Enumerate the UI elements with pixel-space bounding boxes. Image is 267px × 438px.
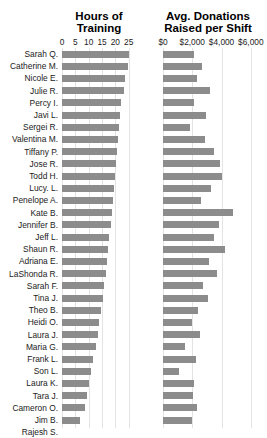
- category-label: Jose R.: [2, 158, 58, 170]
- bar: [62, 63, 128, 70]
- bar: [62, 87, 124, 94]
- bar: [62, 392, 87, 399]
- category-label: Shaun R.: [2, 243, 58, 255]
- bar: [62, 136, 118, 143]
- category-label: Lucy. L.: [2, 182, 58, 194]
- bar: [163, 246, 225, 253]
- category-label: Nicole E.: [2, 72, 58, 84]
- bar: [163, 209, 233, 216]
- bar: [62, 319, 99, 326]
- bar: [163, 136, 205, 143]
- category-label: Penelope A.: [2, 194, 58, 206]
- axis-tick-label: $2,000: [180, 37, 205, 48]
- bar: [62, 112, 120, 119]
- bar: [163, 124, 190, 131]
- category-label: Frank L.: [2, 353, 58, 365]
- bar: [62, 258, 107, 265]
- bar: [62, 51, 129, 58]
- bar: [163, 404, 197, 411]
- bar: [62, 343, 96, 350]
- bar: [163, 356, 196, 363]
- bar: [62, 185, 114, 192]
- category-label: Heidi O.: [2, 316, 58, 328]
- bar: [62, 282, 104, 289]
- bar: [62, 234, 109, 241]
- bar: [62, 295, 103, 302]
- donations-bar-panel: [163, 48, 264, 428]
- category-label: Percy I.: [2, 97, 58, 109]
- bar: [163, 258, 209, 265]
- category-label: Todd H.: [2, 170, 58, 182]
- category-label: Sergei R.: [2, 121, 58, 133]
- bar: [62, 197, 113, 204]
- bar: [163, 307, 198, 314]
- category-label: Jennifer B.: [2, 219, 58, 231]
- bar: [163, 234, 214, 241]
- category-label: Theo B.: [2, 304, 58, 316]
- gridline: [251, 48, 252, 428]
- category-label: Tara J.: [2, 390, 58, 402]
- bar: [163, 380, 194, 387]
- category-label: Jim B.: [2, 414, 58, 426]
- bar: [62, 307, 101, 314]
- category-label: Valentina M.: [2, 133, 58, 145]
- bar: [62, 356, 93, 363]
- axis-tick-label: $0: [158, 37, 167, 48]
- donations-panel-title: Avg. Donations Raised per Shift: [152, 10, 264, 35]
- bar: [163, 173, 222, 180]
- bar: [62, 75, 125, 82]
- category-label: Son L.: [2, 365, 58, 377]
- bar: [62, 221, 111, 228]
- category-label: Cameron O.: [2, 402, 58, 414]
- bar: [62, 124, 119, 131]
- category-label: Sarah Q.: [2, 48, 58, 60]
- bar: [163, 148, 214, 155]
- category-label: Adriana E.: [2, 255, 58, 267]
- bar: [163, 319, 192, 326]
- bar: [163, 75, 197, 82]
- category-label: Laura K.: [2, 377, 58, 389]
- bar: [163, 185, 211, 192]
- bar: [62, 270, 106, 277]
- category-label: Maria G.: [2, 341, 58, 353]
- category-label: Laura J.: [2, 329, 58, 341]
- gridline: [222, 48, 223, 428]
- bar: [163, 63, 202, 70]
- bar: [62, 173, 115, 180]
- category-label: Tina J.: [2, 292, 58, 304]
- bar: [163, 331, 200, 338]
- bar: [62, 368, 91, 375]
- category-label: Javi L.: [2, 109, 58, 121]
- category-label: LaShonda R.: [2, 268, 58, 280]
- bar: [163, 417, 192, 424]
- bar: [62, 404, 85, 411]
- bar: [163, 51, 194, 58]
- bar: [163, 270, 217, 277]
- bar: [163, 221, 219, 228]
- bar: [62, 380, 89, 387]
- bar: [62, 148, 117, 155]
- bar: [62, 331, 98, 338]
- category-label-column: Sarah Q.Catherine M.Nicole E.Julie R.Per…: [0, 48, 58, 428]
- donations-axis-ticks: $0$2,000$4,000$6,000: [0, 37, 267, 48]
- hours-panel-title: Hours of Training: [62, 10, 136, 35]
- category-label: Catherine M.: [2, 60, 58, 72]
- gridline: [129, 48, 130, 428]
- bar: [163, 160, 220, 167]
- bar: [163, 99, 194, 106]
- bar: [163, 282, 203, 289]
- bar: [163, 368, 179, 375]
- category-label: Rajesh S.: [2, 426, 58, 438]
- hours-bar-panel: [62, 48, 134, 428]
- bar: [163, 295, 208, 302]
- category-label: Sarah F.: [2, 280, 58, 292]
- bar: [163, 112, 206, 119]
- bar: [163, 87, 210, 94]
- bar: [163, 392, 193, 399]
- category-label: Tiffany P.: [2, 146, 58, 158]
- bar: [163, 197, 201, 204]
- bar: [62, 99, 121, 106]
- bar: [62, 160, 116, 167]
- category-label: Jeff L.: [2, 231, 58, 243]
